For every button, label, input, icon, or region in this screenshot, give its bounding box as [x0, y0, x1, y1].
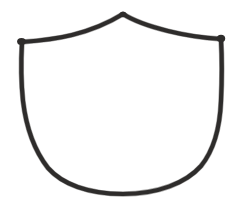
corner-node-apex	[119, 12, 126, 18]
corner-node-left-shoulder	[17, 38, 26, 45]
shield-icon	[0, 0, 232, 204]
drawing-canvas	[0, 0, 232, 204]
corner-node-right-shoulder	[217, 35, 225, 43]
